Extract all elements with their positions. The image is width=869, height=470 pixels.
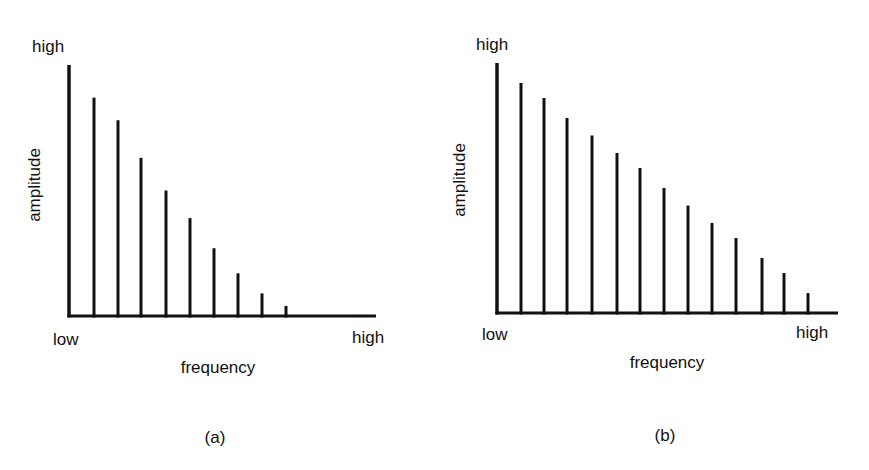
spectrum-lines (497, 63, 808, 315)
y-axis-high-label: high (476, 35, 508, 54)
figure: amplitude high low high frequency (a) am… (0, 0, 869, 470)
chart-panel-b: amplitude high low high frequency (b) (450, 35, 838, 445)
x-axis-label: frequency (630, 353, 705, 372)
spectrum-lines (69, 65, 286, 318)
x-axis-low-label: low (482, 325, 508, 344)
x-axis-label: frequency (181, 358, 256, 377)
y-axis-label: amplitude (450, 143, 469, 217)
panel-label: (a) (205, 428, 226, 447)
panel-label: (b) (655, 426, 676, 445)
x-axis-high-label: high (352, 328, 384, 347)
x-axis-high-label: high (796, 323, 828, 342)
x-axis-low-label: low (53, 330, 79, 349)
chart-panel-a: amplitude high low high frequency (a) (25, 37, 384, 447)
y-axis-high-label: high (32, 37, 64, 56)
y-axis-label: amplitude (25, 148, 44, 222)
